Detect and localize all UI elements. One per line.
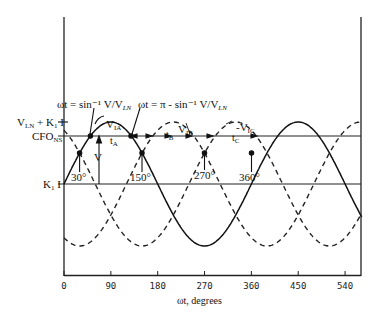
label-t-c: tC xyxy=(232,132,240,145)
x-tick-label: 90 xyxy=(105,281,116,291)
x-tick-label: 270 xyxy=(196,281,212,291)
label-150-deg: 150° xyxy=(130,171,151,183)
x-tick-label: 540 xyxy=(337,281,353,291)
waveform-chart: 090180270360450540 VLN + K1 I xyxy=(0,0,380,323)
x-tick-label: 0 xyxy=(61,281,66,291)
label-vln-k1i: VLN + K1 I xyxy=(17,116,64,130)
label-t-a: tA xyxy=(110,135,118,148)
equation-1: ωt = sin⁻¹ V/VLN xyxy=(57,98,132,112)
label-30-deg: 30° xyxy=(71,171,86,183)
x-tick-label: 360 xyxy=(243,281,259,291)
x-axis-label: ωt, degrees xyxy=(177,295,222,306)
x-axis-ticks: 090180270360450540 xyxy=(61,271,353,291)
label-k1i: K1 I xyxy=(43,178,61,192)
label-360-deg: 360° xyxy=(239,171,260,183)
label-v-ia: VIA xyxy=(106,118,121,132)
x-tick-label: 180 xyxy=(150,281,166,291)
label-v-ic: -VIC xyxy=(236,121,255,135)
x-tick-label: 450 xyxy=(290,281,306,291)
annotations xyxy=(77,108,257,184)
equation-2: ωt = π - sin⁻¹ V/VLN xyxy=(138,98,227,112)
label-v-ib: VIB xyxy=(178,123,193,137)
label-t-b: tB xyxy=(166,129,174,142)
y-level-labels: VLN + K1 I CFONS K1 I xyxy=(17,116,64,192)
label-cfo-ns: CFONS xyxy=(32,130,62,144)
label-v: V xyxy=(94,151,102,163)
label-270-deg: 270° xyxy=(194,169,215,181)
